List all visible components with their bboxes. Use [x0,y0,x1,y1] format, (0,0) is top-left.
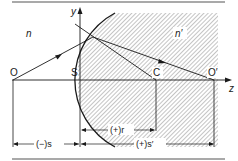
z-axis-label: z [228,83,234,94]
arrowhead-icon [81,142,86,146]
radius-label: (+)r [110,125,124,135]
y-axis-arrow-icon [78,7,83,14]
arrowhead-icon [81,128,86,132]
arrowhead-icon [74,142,79,146]
arrowhead-icon [13,142,18,146]
object-distance-label: (−)s [36,139,52,149]
z-axis-arrow-icon [225,78,232,83]
point-o-label: O [10,67,18,78]
medium-n-label: n [26,28,32,39]
y-axis-label: y [70,6,77,17]
incident-ray-arrow-icon [55,54,62,60]
medium-n-prime-label: n′ [175,28,184,39]
point-o-prime-label: O′ [208,67,218,78]
point-c-label: C [153,67,160,78]
medium-n-prime-region [78,13,218,148]
image-distance-label: (+)s′ [136,139,154,149]
point-s-label: S [71,67,78,78]
refraction-diagram: n n′ O S C O′ y z (+)r (−)s (+)s′ [0,0,238,161]
